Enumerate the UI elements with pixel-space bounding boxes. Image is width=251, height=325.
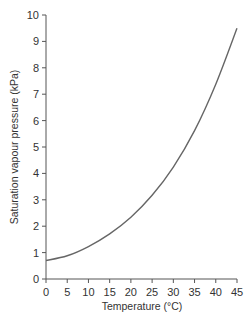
x-tick-label: 10 [82, 286, 94, 298]
data-line [46, 28, 237, 260]
y-tick-label: 4 [33, 167, 39, 179]
y-tick-label: 10 [27, 9, 39, 21]
y-tick-label: 0 [33, 273, 39, 285]
x-tick-label: 0 [43, 286, 49, 298]
y-tick-label: 9 [33, 35, 39, 47]
y-tick-label: 3 [33, 194, 39, 206]
y-tick-label: 5 [33, 141, 39, 153]
x-tick-label: 20 [125, 286, 137, 298]
saturation-vapour-pressure-chart: 012345678910 051015202530354045 Temperat… [0, 0, 251, 325]
x-tick-label: 45 [231, 286, 243, 298]
x-tick-label: 25 [146, 286, 158, 298]
y-tick-label: 7 [33, 88, 39, 100]
y-axis-title: Saturation vapour pressure (kPa) [8, 70, 20, 225]
x-tick-label: 5 [64, 286, 70, 298]
y-tick-label: 2 [33, 220, 39, 232]
y-axis: 012345678910 [27, 9, 46, 285]
x-axis: 051015202530354045 [43, 279, 243, 298]
y-tick-label: 1 [33, 247, 39, 259]
x-tick-label: 30 [167, 286, 179, 298]
x-axis-title: Temperature (°C) [102, 300, 183, 312]
x-tick-label: 15 [104, 286, 116, 298]
x-tick-label: 40 [210, 286, 222, 298]
y-tick-label: 6 [33, 115, 39, 127]
y-tick-label: 8 [33, 62, 39, 74]
x-tick-label: 35 [188, 286, 200, 298]
